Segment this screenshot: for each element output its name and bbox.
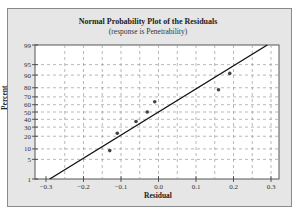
y-tick-label: 20 (24, 133, 32, 141)
data-point (153, 100, 157, 104)
y-tick-label: 95 (24, 61, 32, 69)
y-tick-label: 60 (24, 101, 32, 109)
plot-area: 151020304050607080909599−0.3−0.2−0.10.00… (0, 0, 296, 211)
x-tick-label: 0.3 (267, 183, 276, 191)
data-point (217, 88, 221, 92)
y-tick-label: 5 (28, 156, 32, 164)
y-tick-label: 40 (24, 116, 32, 124)
x-tick-label: −0.1 (115, 183, 128, 191)
y-tick-label: 90 (24, 72, 32, 80)
data-point (145, 110, 149, 114)
y-tick-label: 99 (24, 42, 32, 50)
x-tick-label: 0.2 (229, 183, 238, 191)
x-tick-label: −0.2 (77, 183, 90, 191)
x-axis-label: Residual (0, 191, 296, 200)
y-tick-label: 80 (24, 84, 32, 92)
y-tick-label: 10 (24, 145, 32, 153)
data-point (228, 72, 232, 76)
data-point (108, 149, 112, 153)
data-point (134, 120, 138, 124)
x-tick-label: −0.3 (40, 183, 53, 191)
y-tick-label: 30 (24, 124, 32, 132)
data-point (115, 131, 119, 135)
y-tick-label: 70 (24, 93, 32, 101)
x-tick-label: 0.1 (192, 183, 201, 191)
y-axis-label: Percent (0, 86, 9, 110)
y-tick-label: 50 (24, 109, 32, 117)
x-tick-label: 0.0 (154, 183, 163, 191)
y-tick-label: 1 (28, 176, 32, 184)
